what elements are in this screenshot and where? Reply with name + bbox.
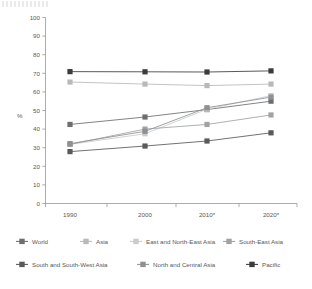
y-tick-label: 10 [33, 181, 40, 188]
legend-label: North and Central Asia [153, 261, 216, 268]
x-tick-label: 2020* [263, 211, 280, 218]
y-tick-label: 50 [33, 107, 40, 114]
legend-item-asia[interactable]: Asia [80, 238, 109, 245]
data-point-marker [204, 69, 209, 74]
y-tick-label: 20 [33, 163, 40, 170]
data-point-marker [142, 114, 147, 119]
square-marker-icon [133, 239, 138, 244]
x-axis: 199020002010*2020* [46, 204, 298, 218]
legend-label: Pacific [262, 261, 280, 268]
legend-item-world[interactable]: World [16, 238, 49, 245]
series-group [67, 68, 273, 154]
data-point-marker [204, 105, 209, 110]
legend-label: Asia [96, 238, 109, 245]
y-tick-label: 40 [33, 125, 40, 132]
page-header-artifact [2, 1, 48, 7]
series-line-asia [70, 82, 271, 86]
data-point-marker [268, 112, 273, 117]
legend-item-south-and-south-west-asia[interactable]: South and South-West Asia [16, 261, 108, 268]
y-tick-label: 70 [33, 70, 40, 77]
y-tick-label: 90 [33, 32, 40, 39]
data-point-marker [268, 81, 273, 86]
legend-item-north-and-central-asia[interactable]: North and Central Asia [137, 261, 216, 268]
data-point-marker [204, 83, 209, 88]
data-point-marker [67, 122, 72, 127]
data-point-marker [142, 143, 147, 148]
legend-item-pacific[interactable]: Pacific [246, 261, 280, 268]
x-tick-label: 2010* [199, 211, 216, 218]
data-point-marker [268, 130, 273, 135]
y-axis-title: % [17, 112, 23, 119]
data-point-marker [142, 69, 147, 74]
y-tick-label: 30 [33, 144, 40, 151]
series-line-pacific [70, 71, 271, 72]
data-point-marker [204, 122, 209, 127]
x-tick-label: 1990 [63, 211, 77, 218]
y-tick-label: 60 [33, 88, 40, 95]
series-line-world [70, 101, 271, 124]
data-point-marker [268, 68, 273, 73]
data-point-marker [67, 69, 72, 74]
legend-item-south-east-asia[interactable]: South-East Asia [223, 238, 284, 245]
y-axis: 0102030405060708090100 [30, 14, 46, 207]
square-marker-icon [83, 239, 88, 244]
square-marker-icon [226, 239, 231, 244]
data-point-marker [67, 141, 72, 146]
legend-label: East and North-East Asia [146, 238, 216, 245]
square-marker-icon [140, 262, 145, 267]
legend-item-east-and-north-east-asia[interactable]: East and North-East Asia [130, 238, 216, 245]
y-tick-label: 80 [33, 51, 40, 58]
line-chart: 0102030405060708090100 199020002010*2020… [0, 0, 312, 289]
chart-legend: WorldAsiaEast and North-East AsiaSouth-E… [16, 238, 284, 268]
data-point-marker [142, 81, 147, 86]
data-point-marker [204, 138, 209, 143]
square-marker-icon [19, 262, 24, 267]
legend-label: South and South-West Asia [32, 261, 108, 268]
series-line-south-and-south-west-asia [70, 133, 271, 152]
y-tick-label: 0 [37, 200, 41, 207]
data-point-marker [268, 95, 273, 100]
square-marker-icon [249, 262, 254, 267]
x-tick-label: 2000 [138, 211, 152, 218]
data-point-marker [67, 79, 72, 84]
legend-label: South-East Asia [239, 238, 284, 245]
square-marker-icon [19, 239, 24, 244]
data-point-marker [67, 149, 72, 154]
legend-label: World [32, 238, 49, 245]
chart-container: 0102030405060708090100 199020002010*2020… [0, 0, 312, 289]
y-tick-label: 100 [30, 14, 41, 21]
data-point-marker [142, 129, 147, 134]
